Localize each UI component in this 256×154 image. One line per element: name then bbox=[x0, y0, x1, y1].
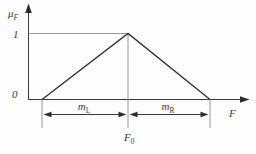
left-spread-right-arrowhead bbox=[119, 112, 127, 117]
figure-canvas: μF 1 0 mL mR F F0 bbox=[0, 0, 256, 154]
x-axis-arrowhead bbox=[240, 96, 250, 103]
right-spread-label: mR bbox=[162, 100, 175, 115]
x-axis-label: F bbox=[228, 107, 236, 119]
y-max-tick-label: 1 bbox=[13, 28, 19, 40]
y-axis-arrowhead bbox=[25, 4, 32, 14]
right-spread-right-arrowhead bbox=[201, 112, 209, 117]
left-spread-left-arrowhead bbox=[44, 112, 52, 117]
center-tick-label: F0 bbox=[123, 131, 135, 146]
membership-triangle-curve bbox=[42, 34, 210, 100]
right-spread-left-arrowhead bbox=[130, 112, 138, 117]
y-axis-label: μF bbox=[7, 7, 19, 22]
origin-tick-label: 0 bbox=[12, 88, 18, 100]
left-spread-label: mL bbox=[78, 100, 91, 115]
membership-function-plot: μF 1 0 mL mR F F0 bbox=[0, 0, 256, 154]
